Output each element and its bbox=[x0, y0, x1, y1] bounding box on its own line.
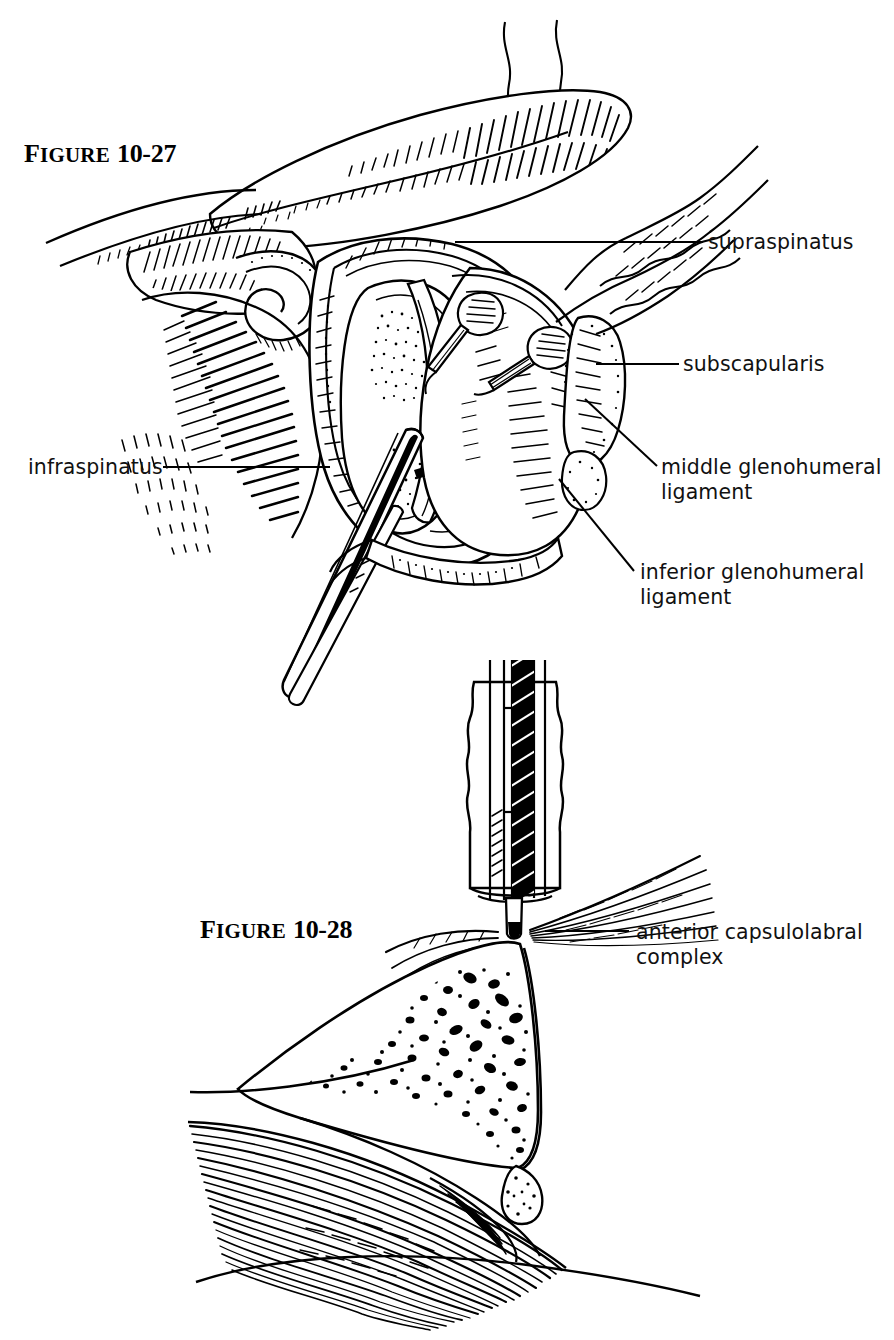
label-anterior-capsulolabral-complex: anterior capsulolabral complex bbox=[636, 920, 863, 970]
label-infraspinatus: infraspinatus bbox=[28, 455, 163, 480]
label-middle-glenohumeral-ligament: middle glenohumeral ligament bbox=[661, 455, 882, 505]
figure-10-27-caption: FIGURE10-27 bbox=[24, 139, 176, 169]
cannula-assembly bbox=[467, 648, 563, 939]
label-supraspinatus: supraspinatus bbox=[708, 230, 854, 255]
figure-word-1027: FIGURE bbox=[24, 143, 110, 167]
figure-10-28-caption: FIGURE10-28 bbox=[200, 915, 352, 945]
label-subscapularis: subscapularis bbox=[683, 352, 825, 377]
figure-number-1028: 10-28 bbox=[293, 915, 352, 944]
label-inferior-glenohumeral-ligament: inferior glenohumeral ligament bbox=[640, 560, 864, 610]
figure-number-1027: 10-27 bbox=[117, 139, 176, 168]
figure-word-1028: FIGURE bbox=[200, 919, 286, 943]
illustration-page: FIGURE10-27 FIGURE10-28 supraspinatus su… bbox=[0, 0, 894, 1340]
figure-10-28-artwork bbox=[0, 0, 894, 1340]
glenoid-bone bbox=[190, 942, 542, 1224]
